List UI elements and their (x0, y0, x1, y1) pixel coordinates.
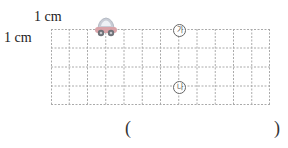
answer-open-paren: ( (125, 119, 131, 137)
answer-close-paren: ) (274, 119, 280, 137)
marker-ga: 가 (173, 24, 186, 37)
unit-label-horizontal: 1 cm (34, 10, 62, 24)
grid (51, 29, 270, 105)
car-icon (93, 14, 119, 38)
unit-label-vertical: 1 cm (4, 31, 32, 45)
marker-na: 나 (173, 81, 186, 94)
